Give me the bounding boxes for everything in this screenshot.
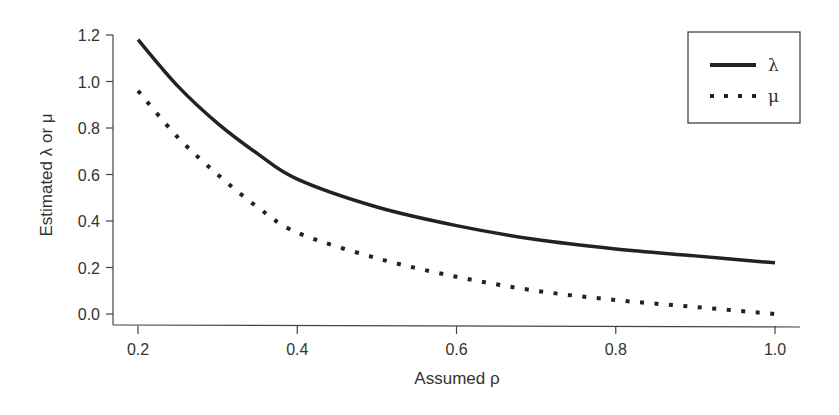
y-axis: 0.00.20.40.60.81.01.2 bbox=[78, 27, 113, 325]
series-mu-line bbox=[138, 91, 775, 314]
legend-label-mu: μ bbox=[768, 86, 779, 106]
legend-label-lambda: λ bbox=[768, 55, 779, 75]
line-chart: 0.00.20.40.60.81.01.2 0.20.40.60.81.0 As… bbox=[0, 0, 839, 415]
y-tick-label: 0.8 bbox=[78, 120, 100, 137]
plot-area bbox=[138, 40, 775, 314]
x-tick-label: 0.6 bbox=[445, 341, 467, 358]
y-axis-title: Estimated λ or μ bbox=[37, 113, 56, 236]
x-axis: 0.20.40.60.81.0 bbox=[113, 325, 800, 358]
y-tick-label: 1.0 bbox=[78, 74, 100, 91]
legend: λ μ bbox=[688, 32, 800, 123]
y-tick-label: 0.2 bbox=[78, 260, 100, 277]
y-tick-label: 0.0 bbox=[78, 306, 100, 323]
x-tick-label: 0.2 bbox=[127, 341, 149, 358]
y-tick-label: 0.6 bbox=[78, 167, 100, 184]
series-lambda-line bbox=[138, 40, 775, 263]
x-tick-label: 0.4 bbox=[286, 341, 308, 358]
x-tick-label: 0.8 bbox=[605, 341, 627, 358]
x-axis-title: Assumed ρ bbox=[414, 369, 499, 388]
x-tick-label: 1.0 bbox=[764, 341, 786, 358]
y-tick-label: 0.4 bbox=[78, 213, 100, 230]
y-tick-label: 1.2 bbox=[78, 27, 100, 44]
